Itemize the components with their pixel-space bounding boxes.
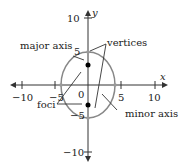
minor-axis-label: minor axis [125,108,178,119]
x-axis-arrow-right [162,82,168,88]
x-tick-label-10: 10 [148,92,161,103]
coordinate-axes [10,10,168,162]
y-tick-label-neg10: −10 [63,147,84,158]
focus-top [86,63,91,68]
leader-lines [57,44,117,110]
y-axis-arrow-up [85,10,91,16]
focus-bottom [86,103,91,108]
vertex-bottom [86,116,90,120]
y-tick-label-10: 10 [67,13,80,24]
vertex-top [86,50,90,54]
x-tick-label-5: 5 [118,92,124,103]
ellipse-diagram: −10 −5 5 10 0 10 5 −5 −10 x y major axis… [0,0,184,168]
vertices-label: vertices [106,37,147,48]
origin-label: 0 [78,89,84,100]
y-axis-arrow-down [85,156,91,162]
minor-axis-leader [102,94,117,110]
y-tick-label-neg5: −5 [70,110,85,121]
y-axis-label: y [91,7,98,18]
co-vertex-left [59,83,63,87]
foci-label: foci [37,99,56,110]
y-tick-label-5: 5 [74,46,80,57]
x-axis-arrow-left [10,82,16,88]
x-tick-label-neg10: −10 [12,92,33,103]
major-axis-label: major axis [20,40,72,51]
vertices-leader-1 [90,44,106,51]
co-vertex-right [113,83,117,87]
x-axis-label: x [160,71,166,82]
